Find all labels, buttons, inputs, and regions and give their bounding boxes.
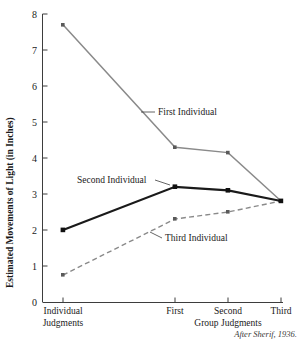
series-second-individual: [61, 184, 284, 232]
y-tick-label-6: 6: [32, 81, 37, 92]
y-tick-label-4: 4: [32, 153, 37, 164]
data-point-first-individual-1: [173, 145, 177, 149]
data-point-second-individual-2: [226, 188, 231, 193]
x-axis-ticks: [63, 298, 281, 303]
data-point-third-individual-0: [61, 273, 65, 277]
y-tick-label-3: 3: [32, 189, 37, 200]
y-tick-label-8: 8: [32, 9, 37, 20]
series-label-third-individual: Third Individual: [165, 233, 228, 243]
y-tick-label-5: 5: [32, 117, 37, 128]
leader-line-third-individual: [150, 232, 162, 238]
data-point-second-individual-1: [173, 184, 178, 189]
y-axis-title: Estimated Movements of Light (in Inches): [5, 117, 16, 288]
data-point-second-individual-0: [61, 228, 66, 233]
data-point-second-individual-3: [279, 199, 284, 204]
y-tick-label-1: 1: [32, 261, 37, 272]
x-tick-label-third: Third: [270, 306, 291, 316]
source-credit: After Sherif, 1936.: [233, 329, 297, 339]
series-label-first-individual: First Individual: [158, 107, 217, 117]
y-tick-label-0: 0: [32, 297, 37, 308]
series-label-second-individual: Second Individual: [77, 175, 147, 185]
sherif-convergence-line-chart: Estimated Movements of Light (in Inches)…: [0, 0, 305, 345]
y-tick-label-7: 7: [32, 45, 37, 56]
x-axis-group-title: Group Judgments: [194, 318, 262, 328]
x-tick-label-second: Second: [214, 306, 242, 316]
chart-figure: Estimated Movements of Light (in Inches)…: [0, 0, 305, 345]
x-tick-label-first: First: [166, 306, 184, 316]
x-tick-label-individual-line1: Individual: [43, 306, 82, 316]
leader-line-second-individual: [155, 180, 170, 185]
data-point-third-individual-1: [173, 217, 177, 221]
x-tick-label-individual-line2: Judgments: [43, 318, 84, 328]
data-point-first-individual-0: [61, 23, 65, 27]
y-tick-label-2: 2: [32, 225, 37, 236]
data-point-first-individual-2: [226, 151, 230, 155]
data-point-third-individual-2: [226, 210, 230, 214]
y-axis-ticks: 8 7 6 5 4 3 2 1 0: [32, 9, 48, 308]
